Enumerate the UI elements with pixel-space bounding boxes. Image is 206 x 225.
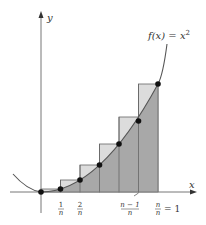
x-axis-label: x [189, 179, 195, 190]
point-0 [38, 189, 44, 195]
y-axis [39, 11, 44, 213]
tick-label-n-over-n-equals-1: n n = 1 [155, 201, 180, 217]
svg-text:n: n [156, 201, 161, 209]
svg-text:n: n [78, 209, 83, 217]
point-4 [116, 141, 122, 147]
function-label: f(x) = x2 [147, 29, 190, 41]
svg-text:2: 2 [78, 201, 82, 209]
y-axis-label: y [46, 12, 53, 23]
point-6 [155, 81, 161, 87]
y-axis-arrow-icon [39, 11, 44, 18]
point-3 [97, 162, 103, 168]
tick-label-n-minus-1-over-n: n − 1 n [120, 193, 139, 217]
svg-text:n: n [59, 209, 64, 217]
point-2 [77, 177, 83, 183]
svg-text:n: n [156, 209, 161, 217]
point-5 [136, 118, 142, 124]
svg-text:n: n [128, 209, 133, 217]
svg-text:= 1: = 1 [164, 204, 180, 214]
riemann-sum-diagram: y x f(x) = x2 1 n 2 n n − 1 n n n = 1 [0, 0, 206, 225]
svg-text:n − 1: n − 1 [120, 201, 139, 209]
tick-label-2-over-n: 2 n [77, 201, 83, 217]
tick-label-1-over-n: 1 n [58, 201, 64, 217]
svg-text:1: 1 [59, 201, 63, 209]
x-axis-arrow-icon [190, 190, 197, 195]
point-1 [58, 186, 64, 192]
